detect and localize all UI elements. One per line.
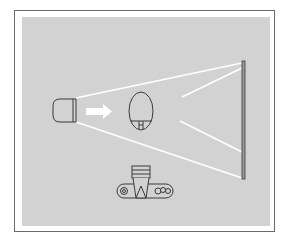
direction-arrow-icon <box>86 104 112 119</box>
light-source-icon <box>53 99 76 122</box>
reflector-screen-icon <box>242 61 245 179</box>
camera-icon <box>117 166 173 198</box>
beam-lines <box>76 63 242 178</box>
subject-oval-icon <box>129 92 153 130</box>
light-path-diagram <box>0 0 288 245</box>
